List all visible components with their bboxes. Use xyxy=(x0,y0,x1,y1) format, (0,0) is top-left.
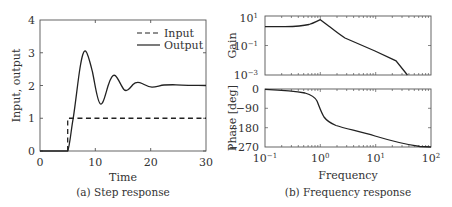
frequency-axis-label: Frequency xyxy=(318,169,378,182)
output-series-line xyxy=(40,51,206,151)
y-axis-label: Input, output xyxy=(10,48,23,122)
phase-x-ticks xyxy=(265,89,431,147)
y-tick-3: 3 xyxy=(28,47,35,60)
gain-subplot: 101 10−1 10−3 Gain xyxy=(226,12,431,82)
phase-y-tick-minus90: −90 xyxy=(236,102,259,115)
freq-x-tick-10e2: 102 xyxy=(422,152,440,165)
phase-y-tick-0: 0 xyxy=(252,83,259,96)
x-tick-20: 20 xyxy=(144,156,158,169)
caption-frequency-response: (b) Frequency response xyxy=(285,186,411,198)
x-axis-label: Time xyxy=(109,171,137,184)
gain-plot-frame xyxy=(265,16,431,75)
gain-curve xyxy=(265,20,407,75)
y-tick-1: 1 xyxy=(28,112,35,125)
freq-x-tick-10e0: 100 xyxy=(311,152,329,165)
x-tick-10: 10 xyxy=(88,156,102,169)
caption-step-response: (a) Step response xyxy=(76,186,170,198)
gain-axis-label: Gain xyxy=(226,33,239,59)
phase-axis-label: Phase [deg] xyxy=(226,85,239,151)
phase-plot-frame xyxy=(265,89,431,147)
input-series-line xyxy=(68,118,206,151)
phase-curve xyxy=(265,89,431,147)
phase-subplot: 0 −90 −180 −270 Phase [deg] xyxy=(226,83,431,154)
legend: Input Output xyxy=(137,27,204,52)
y-axis-ticks xyxy=(40,53,206,151)
y-tick-0: 0 xyxy=(28,145,35,158)
freq-x-tick-10e-1: 10−1 xyxy=(253,152,277,165)
gain-x-ticks xyxy=(265,16,431,75)
step-response-chart: 0 1 2 3 4 0 10 20 30 Time Input, output … xyxy=(10,14,213,198)
freq-x-tick-10e1: 101 xyxy=(366,152,384,165)
legend-output-label: Output xyxy=(164,39,204,52)
x-tick-0: 0 xyxy=(37,156,44,169)
frequency-response-chart: 101 10−1 10−3 Gain 0 xyxy=(226,12,440,198)
x-axis-ticks xyxy=(95,20,150,151)
gain-y-tick-10e1: 101 xyxy=(240,12,258,25)
y-tick-4: 4 xyxy=(28,14,35,27)
gain-y-tick-10e-3: 10−3 xyxy=(234,69,258,82)
figure: 0 1 2 3 4 0 10 20 30 Time Input, output … xyxy=(0,0,452,207)
x-tick-30: 30 xyxy=(199,156,213,169)
y-tick-2: 2 xyxy=(28,80,35,93)
